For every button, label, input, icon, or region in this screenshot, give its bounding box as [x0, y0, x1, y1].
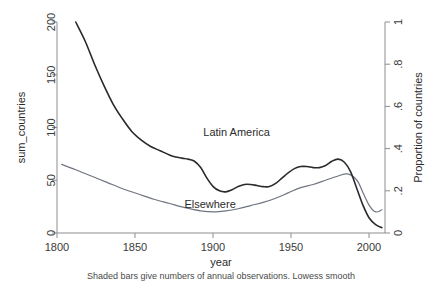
y-tick-label-0: 0 [45, 230, 57, 236]
x-tick-label-1850: 1850 [123, 241, 147, 253]
y-axis-title: sum_countries [15, 91, 27, 163]
series-annotation-latin-america: Latin America [203, 126, 271, 138]
y2-tick-label-02: .2 [392, 186, 404, 195]
y2-tick-label-06: .6 [392, 102, 404, 111]
series-annotation-elsewhere: Elsewhere [184, 198, 235, 210]
y2-tick-label-08: .8 [392, 60, 404, 69]
y2-axis-title: Proportion of countries [412, 72, 424, 183]
y2-axis-tick-labels: 1 .8 .6 .4 .2 0 [392, 19, 404, 236]
x-axis-tick-labels: 1800 1850 1900 1950 2000 [45, 241, 381, 253]
y2-axis-ticks [385, 22, 390, 233]
x-tick-label-1800: 1800 [45, 241, 69, 253]
y2-tick-label-1: 1 [392, 19, 404, 25]
chart-figure: 200 150 100 50 0 sum_countries 1 .8 .6 .… [0, 0, 438, 296]
y2-tick-label-0: 0 [392, 230, 404, 236]
chart-svg: 200 150 100 50 0 sum_countries 1 .8 .6 .… [0, 0, 438, 296]
x-tick-label-1900: 1900 [201, 241, 225, 253]
y-tick-label-200: 200 [45, 13, 57, 31]
x-axis-title: year [210, 256, 232, 268]
chart-note: Shaded bars give numbers of annual obser… [87, 271, 355, 281]
y-tick-label-100: 100 [45, 118, 57, 136]
y-tick-label-50: 50 [45, 174, 57, 186]
y2-tick-label-04: .4 [392, 144, 404, 153]
y-tick-label-150: 150 [45, 66, 57, 84]
x-tick-label-1950: 1950 [279, 241, 303, 253]
x-tick-label-2000: 2000 [357, 241, 381, 253]
y-axis-tick-labels: 200 150 100 50 0 [45, 13, 57, 236]
x-axis-ticks [57, 233, 369, 238]
